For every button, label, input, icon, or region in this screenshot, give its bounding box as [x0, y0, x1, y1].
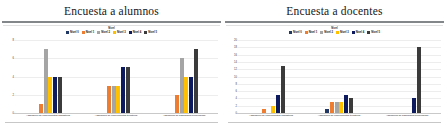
bar[interactable] — [107, 86, 111, 113]
y-axis-tick-label: 20 — [228, 39, 237, 42]
x-axis-categories: Adquisición de conocimientos lingüístico… — [237, 113, 441, 125]
y-axis-labels: 86420 — [5, 40, 14, 113]
bar[interactable] — [412, 98, 416, 113]
legend-item-label: Nivel 1 — [86, 31, 95, 34]
legend-item-label: Nivel 5 — [148, 31, 157, 34]
bar[interactable] — [58, 77, 62, 114]
plot-area-docentes: Nivel Nivel 0Nivel 1Nivel 2Nivel 3Nivel … — [226, 25, 443, 125]
legend-swatch-icon — [289, 31, 292, 34]
bar[interactable] — [417, 47, 421, 113]
legend-swatch-icon — [352, 31, 355, 34]
bar[interactable] — [339, 102, 343, 113]
bar[interactable] — [281, 66, 285, 113]
y-axis-tick-label: 12 — [228, 68, 237, 71]
legend-caption: Nivel — [226, 27, 443, 30]
bar[interactable] — [39, 104, 43, 113]
legend-item-label: Nivel 0 — [70, 31, 79, 34]
y-axis-tick-label: 4 — [228, 97, 237, 100]
legend-item-nivel-2[interactable]: Nivel 2 — [97, 31, 110, 34]
bar[interactable] — [121, 67, 125, 113]
bar[interactable] — [276, 95, 280, 113]
x-axis-category-label: Adquisición de conocimientos temáticos — [311, 114, 367, 117]
bar[interactable] — [44, 49, 48, 113]
bar[interactable] — [48, 77, 52, 114]
y-axis-tick-label: 2 — [228, 104, 237, 107]
bar-group — [34, 40, 62, 113]
legend-items: Nivel 0Nivel 1Nivel 2Nivel 3Nivel 4Nivel… — [226, 31, 443, 34]
legend-swatch-icon — [305, 31, 308, 34]
legend-item-nivel-4[interactable]: Nivel 4 — [129, 31, 142, 34]
x-axis-category-label: Adquisición de conocimientos lingüístico… — [20, 114, 76, 117]
title-divider — [2, 21, 221, 23]
legend-swatch-icon — [129, 31, 132, 34]
bar-groups — [14, 40, 218, 113]
legend-swatch-icon — [320, 31, 323, 34]
legend-item-nivel-0[interactable]: Nivel 0 — [66, 31, 79, 34]
legend-swatch-icon — [367, 31, 370, 34]
legend-swatch-icon — [82, 31, 85, 34]
bottom-divider — [228, 122, 441, 123]
legend-item-label: Nivel 5 — [371, 31, 380, 34]
title-divider — [225, 21, 444, 23]
legend-item-label: Nivel 2 — [324, 31, 333, 34]
axes-alumnos: 86420 Adquisición de conocimientos lingü… — [3, 40, 220, 125]
legend-swatch-icon — [66, 31, 69, 34]
chart-panel-docentes: Encuesta a docentes Nivel Nivel 0Nivel 1… — [223, 0, 446, 125]
y-axis-tick-label: 16 — [228, 53, 237, 56]
y-axis-tick-label: 14 — [228, 60, 237, 63]
legend-item-nivel-5[interactable]: Nivel 5 — [144, 31, 157, 34]
bar[interactable] — [126, 67, 130, 113]
x-axis-category-label: Adquisición de habilidades tecnológicas — [379, 114, 435, 117]
legend-item-nivel-1[interactable]: Nivel 1 — [305, 31, 318, 34]
plot-area-alumnos: Nivel Nivel 0Nivel 1Nivel 2Nivel 3Nivel … — [3, 25, 220, 125]
bar[interactable] — [344, 95, 348, 113]
bar-group — [257, 40, 285, 113]
bar[interactable] — [175, 95, 179, 113]
y-axis-tick-label: 10 — [228, 75, 237, 78]
bar[interactable] — [349, 98, 353, 113]
y-axis-tick-label: 4 — [5, 75, 14, 78]
legend-item-label: Nivel 3 — [340, 31, 349, 34]
legend-item-nivel-4[interactable]: Nivel 4 — [352, 31, 365, 34]
y-axis-tick-label: 6 — [228, 90, 237, 93]
bar[interactable] — [330, 102, 334, 113]
bar-group — [102, 40, 130, 113]
legend-item-nivel-3[interactable]: Nivel 3 — [336, 31, 349, 34]
legend-alumnos: Nivel Nivel 0Nivel 1Nivel 2Nivel 3Nivel … — [3, 27, 220, 34]
legend-item-label: Nivel 0 — [293, 31, 302, 34]
bar[interactable] — [335, 102, 339, 113]
y-axis-tick-label: 8 — [5, 39, 14, 42]
y-axis-labels: 20181614121086420 — [228, 40, 237, 113]
y-axis-tick-label: 2 — [5, 93, 14, 96]
bar[interactable] — [194, 49, 198, 113]
bar[interactable] — [116, 86, 120, 113]
bar-groups — [237, 40, 441, 113]
legend-item-nivel-0[interactable]: Nivel 0 — [289, 31, 302, 34]
bar[interactable] — [53, 77, 57, 114]
x-axis-category-label: Adquisición de conocimientos temáticos — [88, 114, 144, 117]
legend-swatch-icon — [97, 31, 100, 34]
y-axis-tick-label: 0 — [5, 112, 14, 115]
legend-item-label: Nivel 4 — [133, 31, 142, 34]
bar[interactable] — [112, 86, 116, 113]
y-axis-tick-label: 18 — [228, 46, 237, 49]
bar[interactable] — [189, 77, 193, 114]
legend-item-nivel-1[interactable]: Nivel 1 — [82, 31, 95, 34]
bar[interactable] — [180, 58, 184, 113]
axes-docentes: 20181614121086420 Adquisición de conocim… — [226, 40, 443, 125]
page-title-secondary: Encuesta a docentes — [223, 0, 446, 18]
legend-items: Nivel 0Nivel 1Nivel 2Nivel 3Nivel 4Nivel… — [3, 31, 220, 34]
legend-item-label: Nivel 4 — [356, 31, 365, 34]
bottom-divider — [5, 122, 218, 123]
legend-item-nivel-2[interactable]: Nivel 2 — [320, 31, 333, 34]
legend-swatch-icon — [144, 31, 147, 34]
legend-item-nivel-5[interactable]: Nivel 5 — [367, 31, 380, 34]
y-axis-tick-label: 8 — [228, 82, 237, 85]
legend-item-label: Nivel 3 — [117, 31, 126, 34]
legend-item-nivel-3[interactable]: Nivel 3 — [113, 31, 126, 34]
bar-group — [170, 40, 198, 113]
legend-docentes: Nivel Nivel 0Nivel 1Nivel 2Nivel 3Nivel … — [226, 27, 443, 34]
bar[interactable] — [184, 77, 188, 114]
x-axis-category-label: Adquisición de conocimientos lingüístico… — [243, 114, 299, 117]
bar[interactable] — [271, 106, 275, 113]
